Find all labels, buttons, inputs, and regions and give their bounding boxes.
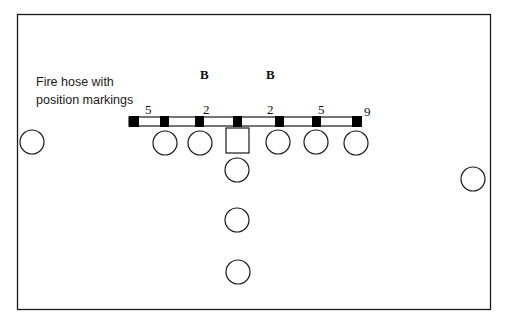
- hose-marker: [275, 116, 284, 127]
- player-circle: [188, 131, 212, 155]
- hose-number: 5: [145, 102, 152, 117]
- caption-line-2: position markings: [36, 93, 133, 107]
- hose-marker: [160, 116, 169, 127]
- player-circle-wide-left: [20, 130, 44, 154]
- hose-marker: [233, 116, 242, 127]
- hose-marker: [312, 116, 321, 127]
- hose-number: 9: [364, 104, 371, 119]
- player-circle: [266, 130, 290, 154]
- back-label-left: B: [200, 67, 209, 82]
- player-circle-backfield: [226, 260, 250, 284]
- player-circle: [304, 130, 328, 154]
- hose-number: 5: [318, 102, 325, 117]
- hose-number: 2: [203, 102, 210, 117]
- caption-line-1: Fire hose with: [36, 75, 114, 89]
- hose-marker: [352, 116, 362, 127]
- player-circle-backfield: [225, 158, 249, 182]
- field-border: [18, 15, 491, 310]
- back-label-right: B: [266, 67, 275, 82]
- player-circle: [344, 131, 368, 155]
- player-circle: [153, 131, 177, 155]
- hose-marker: [129, 116, 139, 127]
- player-circle-backfield: [225, 208, 249, 232]
- hose-marker: [195, 116, 204, 127]
- player-circle-wide-right: [461, 167, 485, 191]
- center-square: [226, 128, 249, 153]
- hose-number: 2: [267, 102, 274, 117]
- diagram-canvas: Fire hose with position markings B B 5 2…: [0, 0, 505, 328]
